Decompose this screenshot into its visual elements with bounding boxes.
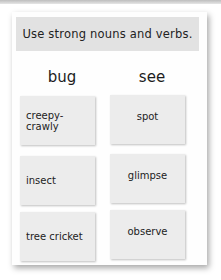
word-card: Use strong nouns and verbs. bug see cree…: [12, 12, 207, 265]
word-tile: tree cricket: [20, 212, 95, 261]
word-tile: insect: [20, 156, 95, 205]
column-heading-bug: bug: [22, 68, 102, 86]
word-tile: spot: [110, 95, 185, 144]
instruction-banner: Use strong nouns and verbs.: [16, 17, 199, 51]
word-tile: observe: [110, 210, 185, 259]
word-tile: glimpse: [110, 154, 185, 203]
word-tile: creepy-crawly: [20, 96, 95, 145]
top-edge: [0, 0, 221, 4]
column-heading-see: see: [112, 68, 192, 86]
